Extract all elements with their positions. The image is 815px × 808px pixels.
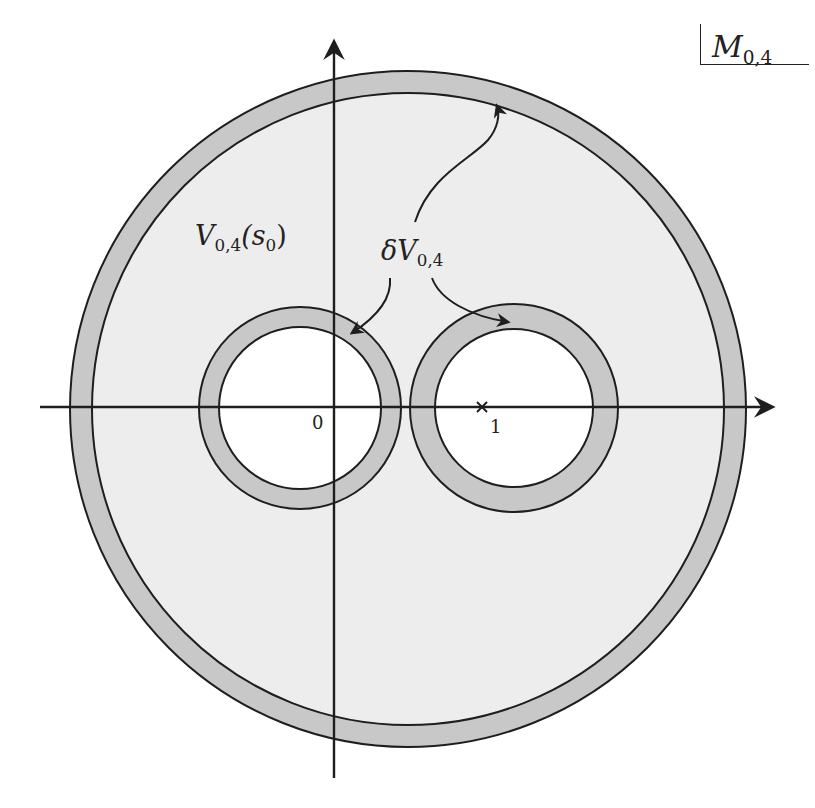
space-label-main: M [712,29,743,64]
region-label-main: V [195,220,215,251]
region-label-close: ) [276,220,287,251]
region-label-arg-sub: 0 [266,235,277,255]
boundary-label: δV0,4 [381,237,443,269]
space-label-sub: 0,4 [743,47,773,68]
region-label-sub: 0,4 [215,235,242,255]
boundary-label-sub: 0,4 [417,250,444,270]
boundary-label-prefix: δ [381,235,397,266]
origin-label: 0 [312,414,323,432]
moduli-space-diagram [0,0,815,808]
point-label: 1 [490,418,501,436]
big-disk [70,71,746,747]
region-label-arg: (s [241,220,265,251]
space-label: M0,4 [712,32,772,67]
boundary-label-main: V [397,235,417,266]
big-disk-inner-boundary [92,93,724,725]
region-label: V0,4(s0) [195,222,287,254]
